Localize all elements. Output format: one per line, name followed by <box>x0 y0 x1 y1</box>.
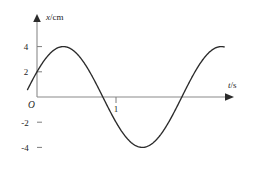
chart-canvas: x/cm t/s O 4 2 -2 -4 1 <box>0 0 254 183</box>
origin-label: O <box>28 100 35 110</box>
y-axis-label: x/cm <box>45 12 64 22</box>
x-axis-arrowhead <box>225 93 234 101</box>
y-axis-arrowhead <box>33 14 41 22</box>
y-tick-label-4: 4 <box>24 42 29 52</box>
x-tick-label-1: 1 <box>114 104 119 114</box>
x-axis-label: t/s <box>228 80 237 90</box>
y-tick-label-minus-2: -2 <box>21 118 29 128</box>
x-axis-unit: /s <box>231 80 238 90</box>
physics-displacement-time-graph: x/cm t/s O 4 2 -2 -4 1 <box>0 0 254 183</box>
y-tick-label-2: 2 <box>24 67 29 77</box>
y-axis-unit: /cm <box>50 12 64 22</box>
y-tick-label-minus-4: -4 <box>21 143 29 153</box>
